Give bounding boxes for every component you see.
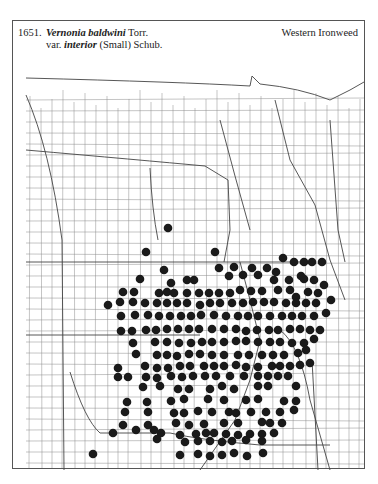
occurrence-dot: [155, 312, 164, 321]
occurrence-dot: [151, 338, 160, 347]
occurrence-dot: [327, 296, 336, 305]
occurrence-dot: [195, 289, 204, 298]
occurrence-dot: [302, 346, 311, 355]
occurrence-dot: [142, 373, 151, 382]
occurrence-dot: [153, 351, 162, 360]
occurrence-dot: [218, 451, 227, 460]
occurrence-dot: [210, 429, 219, 438]
occurrence-dot: [208, 351, 217, 360]
occurrence-dot: [117, 312, 126, 321]
occurrence-dot: [175, 339, 184, 348]
occurrence-dot: [226, 289, 235, 298]
occurrence-dot: [152, 326, 161, 335]
occurrence-dot: [153, 374, 162, 383]
occurrence-dot: [176, 362, 185, 371]
occurrence-dot: [208, 408, 217, 417]
occurrence-dot: [239, 271, 248, 280]
occurrence-dot: [243, 452, 252, 461]
occurrence-dot: [286, 286, 295, 295]
occurrence-dot: [278, 312, 287, 321]
occurrence-dot: [210, 362, 219, 371]
occurrence-dot: [141, 299, 150, 308]
occurrence-dot: [258, 351, 267, 360]
occurrence-dot: [119, 421, 128, 430]
occurrence-dot: [266, 338, 275, 347]
occurrence-dot: [248, 264, 257, 273]
occurrence-dot: [215, 289, 224, 298]
occurrence-dot: [230, 263, 239, 272]
occurrence-dot: [254, 395, 263, 404]
occurrence-dot: [228, 299, 237, 308]
occurrence-dot: [200, 362, 209, 371]
occurrence-dot: [264, 372, 273, 381]
occurrence-dot: [242, 396, 251, 405]
occurrence-dot: [269, 351, 278, 360]
occurrence-dot: [198, 338, 207, 347]
occurrence-dot: [141, 362, 150, 371]
occurrence-dot: [210, 311, 219, 320]
occurrence-dot: [278, 419, 287, 428]
occurrence-dot: [156, 382, 165, 391]
occurrence-dot: [265, 326, 274, 335]
occurrence-dot: [270, 298, 279, 307]
occurrence-dot: [266, 419, 275, 428]
occurrence-dot: [218, 382, 227, 391]
occurrence-dot: [230, 449, 239, 458]
occurrence-dot: [200, 420, 209, 429]
occurrence-dot: [129, 298, 138, 307]
occurrence-dot: [249, 298, 258, 307]
occurrence-dot: [292, 397, 301, 406]
occurrence-dot: [119, 288, 128, 297]
occurrence-dot: [296, 361, 305, 370]
occurrence-dot: [308, 258, 317, 267]
occurrence-dot: [206, 437, 215, 446]
occurrence-dot: [234, 351, 243, 360]
occurrence-dot: [292, 382, 301, 391]
occurrence-dot: [268, 362, 277, 371]
occurrence-dot: [310, 312, 319, 321]
occurrence-dot: [220, 351, 229, 360]
occurrence-dot: [279, 254, 288, 263]
occurrence-dot: [239, 299, 248, 308]
occurrence-dot: [280, 351, 289, 360]
occurrence-dot: [220, 396, 229, 405]
occurrence-dot: [242, 327, 251, 336]
occurrence-dot: [123, 398, 132, 407]
occurrence-dot: [306, 359, 315, 368]
occurrence-dot: [274, 326, 283, 335]
occurrence-dot: [160, 266, 169, 275]
occurrence-dot: [222, 312, 231, 321]
occurrence-dot: [258, 418, 267, 427]
occurrence-dot: [260, 298, 269, 307]
occurrence-dot: [318, 258, 327, 267]
occurrence-dot: [310, 335, 319, 344]
occurrence-dot: [206, 299, 215, 308]
occurrence-dot: [244, 312, 253, 321]
occurrence-dot: [247, 408, 256, 417]
occurrence-dot: [296, 325, 305, 334]
occurrence-dot: [208, 325, 217, 334]
occurrence-dot: [230, 385, 239, 394]
occurrence-dot: [206, 385, 215, 394]
occurrence-dot: [153, 364, 162, 373]
occurrence-dot: [232, 325, 241, 334]
occurrence-dot: [121, 408, 130, 417]
occurrence-dot: [254, 372, 263, 381]
occurrence-dot: [254, 338, 263, 347]
occurrence-dot: [128, 327, 137, 336]
occurrence-dot: [320, 281, 329, 290]
occurrence-dot: [130, 288, 139, 297]
occurrence-dot: [262, 408, 271, 417]
occurrence-dot: [187, 339, 196, 348]
occurrence-dot: [178, 373, 187, 382]
occurrence-dot: [194, 437, 203, 446]
occurrence-dot: [131, 311, 140, 320]
occurrence-dot: [173, 352, 182, 361]
occurrence-dot: [163, 299, 172, 308]
occurrence-dot: [276, 338, 285, 347]
occurrence-dot: [288, 339, 297, 348]
occurrence-dot: [316, 326, 325, 335]
occurrence-dot: [322, 309, 331, 318]
occurrence-dot: [129, 339, 138, 348]
occurrence-dot: [264, 382, 273, 391]
